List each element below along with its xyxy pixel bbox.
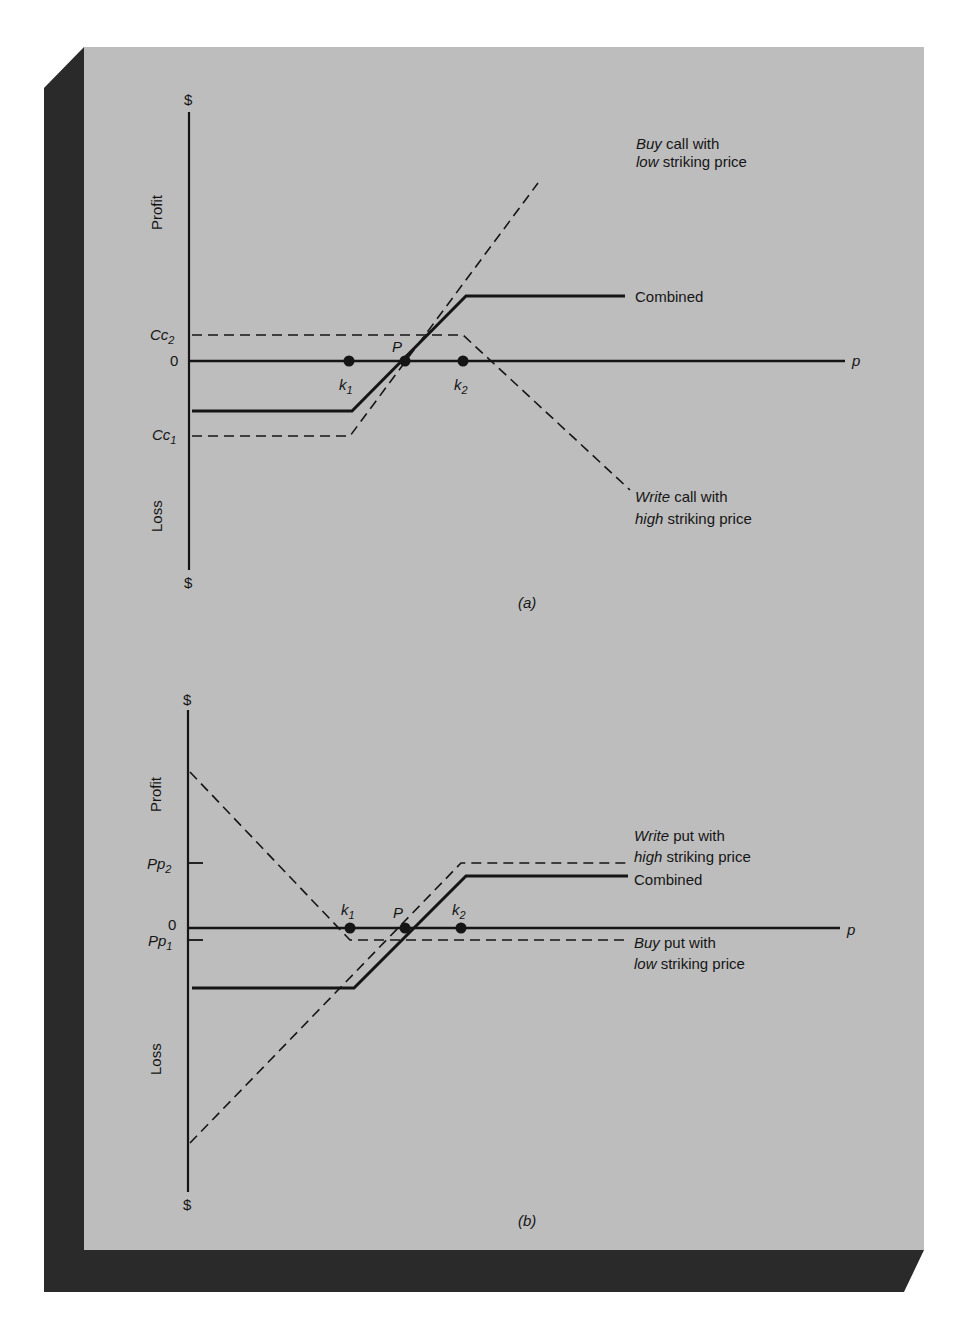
x-axis-label: p — [846, 921, 855, 938]
x-axis-label: p — [851, 352, 860, 369]
panel-caption-b: (b) — [518, 1212, 536, 1229]
y-axis-loss-label: Loss — [148, 500, 165, 532]
y-axis-top-dollar: $ — [183, 691, 192, 708]
tick-label-zero: 0 — [170, 352, 178, 369]
legend-write-put-line2: high striking price — [634, 848, 751, 865]
label-P: P — [393, 904, 403, 921]
legend-buy-call-line1: Buy call with — [636, 135, 719, 152]
y-axis-profit-label: Profit — [148, 194, 165, 230]
point-P — [400, 923, 411, 934]
legend-write-call-line1: Write call with — [635, 488, 728, 505]
legend-buy-put-line1: Buy put with — [634, 934, 716, 951]
point-P — [400, 356, 411, 367]
legend-write-put-line1: Write put with — [634, 827, 725, 844]
figure: $ $ Profit Loss p Cc2 0 Cc1 k1 P k2 Buy … — [0, 0, 971, 1325]
legend-combined: Combined — [634, 871, 702, 888]
point-k1 — [345, 923, 356, 934]
point-k2 — [456, 923, 467, 934]
legend-write-call-line2: high striking price — [635, 510, 752, 527]
point-k1 — [344, 356, 355, 367]
panel-caption-a: (a) — [518, 594, 536, 611]
y-axis-loss-label: Loss — [147, 1043, 164, 1075]
figure-canvas: $ $ Profit Loss p Cc2 0 Cc1 k1 P k2 Buy … — [0, 0, 971, 1325]
point-k2 — [458, 356, 469, 367]
y-axis-top-dollar: $ — [184, 91, 193, 108]
legend-buy-call-line2: low striking price — [636, 153, 747, 170]
y-axis-profit-label: Profit — [147, 776, 164, 812]
legend-buy-put-line2: low striking price — [634, 955, 745, 972]
y-axis-bottom-dollar: $ — [183, 1196, 192, 1213]
legend-combined: Combined — [635, 288, 703, 305]
tick-label-zero: 0 — [168, 916, 176, 933]
y-axis-bottom-dollar: $ — [184, 574, 193, 591]
label-P: P — [392, 338, 402, 355]
